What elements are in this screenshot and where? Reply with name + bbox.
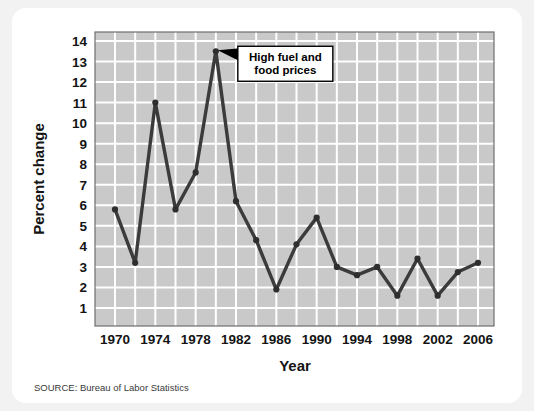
x-axis-tick-labels: 1970197419781982198619901994199820022006 — [100, 332, 494, 347]
chart-svg: 1234567891011121314 19701974197819821986… — [12, 8, 522, 403]
x-axis-tick-label: 1978 — [181, 332, 212, 347]
data-point-marker — [213, 48, 219, 54]
y-axis-tick-label: 3 — [79, 260, 87, 275]
annotation-text-line-1: High fuel and — [249, 51, 322, 63]
x-axis-tick-label: 2006 — [463, 332, 494, 347]
data-point-marker — [394, 293, 400, 299]
x-axis-tick-label: 1994 — [342, 332, 373, 347]
data-point-marker — [273, 286, 279, 292]
x-axis-tick-label: 1982 — [221, 332, 251, 347]
data-point-marker — [233, 198, 239, 204]
y-axis-tick-label: 13 — [72, 55, 88, 70]
x-axis-tick-label: 1990 — [302, 332, 332, 347]
y-axis-tick-label: 12 — [72, 75, 87, 90]
x-axis-tick-label: 1974 — [140, 332, 171, 347]
data-point-marker — [354, 272, 360, 278]
data-point-marker — [132, 260, 138, 266]
data-point-marker — [253, 237, 259, 243]
x-axis-title: Year — [279, 357, 311, 374]
annotation-text-line-2: food prices — [254, 64, 316, 76]
data-point-marker — [193, 169, 199, 175]
y-axis-tick-label: 6 — [79, 198, 87, 213]
y-axis-tick-label: 10 — [72, 116, 87, 131]
y-axis-tick-label: 7 — [79, 178, 87, 193]
data-point-marker — [314, 215, 320, 221]
x-axis-tick-label: 1998 — [382, 332, 413, 347]
y-axis-tick-label: 8 — [79, 157, 87, 172]
data-point-marker — [455, 269, 461, 275]
y-axis-tick-label: 4 — [79, 239, 87, 254]
y-axis-tick-label: 14 — [72, 34, 88, 49]
y-axis-tick-label: 9 — [79, 137, 87, 152]
x-axis-tick-label: 2002 — [423, 332, 453, 347]
y-axis-tick-label: 11 — [73, 96, 88, 111]
y-axis-tick-label: 5 — [79, 219, 87, 234]
y-axis-tick-label: 1 — [79, 301, 87, 316]
data-point-marker — [334, 264, 340, 270]
chart-card: 1234567891011121314 19701974197819821986… — [12, 8, 522, 403]
data-point-marker — [172, 206, 178, 212]
y-axis-tick-labels: 1234567891011121314 — [72, 34, 88, 316]
data-point-marker — [293, 241, 299, 247]
y-axis-tick-label: 2 — [79, 280, 87, 295]
y-axis-title: Percent change — [30, 123, 47, 235]
chart-figure: 1234567891011121314 19701974197819821986… — [12, 8, 522, 403]
data-point-marker — [414, 256, 420, 262]
data-point-marker — [112, 206, 118, 212]
source-note: SOURCE: Bureau of Labor Statistics — [34, 382, 189, 393]
x-axis-tick-label: 1970 — [100, 332, 130, 347]
data-point-marker — [475, 260, 481, 266]
x-axis-tick-label: 1986 — [261, 332, 292, 347]
data-point-marker — [152, 100, 158, 106]
data-point-marker — [435, 293, 441, 299]
data-point-marker — [374, 264, 380, 270]
